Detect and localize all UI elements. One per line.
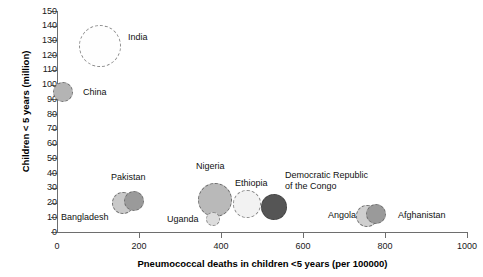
point-label-nigeria: Nigeria [196, 161, 225, 172]
x-tick-label-wrap: 1000 [447, 241, 483, 251]
x-tick-mark [221, 232, 222, 238]
x-tick-label: 600 [283, 241, 323, 251]
bubble-ethiopia [233, 190, 261, 218]
bubble-afghanistan [366, 204, 386, 224]
y-tick-label-wrap: 0 [0, 228, 57, 237]
point-label-pakistan: Pakistan [111, 172, 146, 183]
y-tick-label: 110 [33, 65, 57, 74]
bubble-democratic-republic [261, 194, 287, 220]
x-tick-label-wrap: 600 [283, 241, 323, 251]
point-label-angola: Angola [328, 210, 356, 221]
bubble-india [79, 25, 121, 67]
bubble-pakistan [124, 191, 144, 211]
point-label-ethiopia: Ethiopia [235, 178, 268, 189]
point-label-democratic-republic: Democratic Republic of the Congo [285, 170, 368, 191]
bubble-china [53, 82, 73, 102]
point-label-bangladesh: Bangladesh [61, 212, 109, 223]
y-tick-label: 30 [33, 183, 57, 192]
x-tick-label-wrap: 800 [365, 241, 405, 251]
y-tick-label: 50 [33, 154, 57, 163]
point-label-uganda: Uganda [167, 214, 199, 225]
y-tick-label: 130 [33, 36, 57, 45]
x-tick-label-wrap: 0 [37, 241, 77, 251]
y-axis-title: Children < 5 years (million) [20, 2, 31, 222]
y-axis-line [57, 11, 58, 233]
point-label-afghanistan: Afghanistan [398, 210, 446, 221]
x-tick-mark [139, 232, 140, 238]
y-tick-label: 70 [33, 124, 57, 133]
x-tick-label: 400 [201, 241, 241, 251]
x-tick-mark [467, 232, 468, 238]
x-tick-mark [303, 232, 304, 238]
bubble-uganda [206, 212, 220, 226]
y-tick-label: 60 [33, 139, 57, 148]
x-tick-label: 200 [119, 241, 159, 251]
x-tick-mark [385, 232, 386, 238]
x-axis-title: Pneumococcal deaths in children <5 years… [57, 258, 468, 269]
x-tick-label: 800 [365, 241, 405, 251]
point-label-india: India [128, 32, 148, 43]
y-tick-label: 150 [33, 7, 57, 16]
x-tick-label-wrap: 400 [201, 241, 241, 251]
x-tick-label-wrap: 200 [119, 241, 159, 251]
x-tick-label: 0 [37, 241, 77, 251]
x-axis-line [57, 232, 468, 233]
y-tick-label: 0 [33, 228, 57, 237]
y-tick-label: 120 [33, 51, 57, 60]
y-tick-label: 140 [33, 21, 57, 30]
y-tick-label: 20 [33, 198, 57, 207]
y-tick-label: 80 [33, 110, 57, 119]
bubble-chart: 0102030405060708090100110120130140150 02… [0, 0, 483, 277]
point-label-china: China [83, 87, 107, 98]
y-tick-label: 10 [33, 213, 57, 222]
y-tick-label: 40 [33, 169, 57, 178]
x-tick-label: 1000 [447, 241, 483, 251]
